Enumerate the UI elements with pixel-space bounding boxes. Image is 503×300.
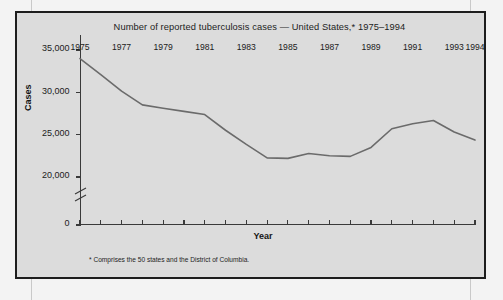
page-background: Number of reported tuberculosis cases — … <box>0 0 503 300</box>
y-axis-tick-label: 25,000 <box>42 128 70 138</box>
y-axis-title: Cases <box>23 84 33 111</box>
y-axis-tick-label: 35,000 <box>42 43 70 53</box>
chart-title: Number of reported tuberculosis cases — … <box>17 22 484 32</box>
y-axis-tick-label: 20,000 <box>42 170 70 180</box>
figure-panel: Number of reported tuberculosis cases — … <box>15 11 486 279</box>
x-axis-title: Year <box>17 231 484 241</box>
plot-area: 020,00025,00030,00035,000 19751977197919… <box>80 35 475 225</box>
y-axis-tick-label: 0 <box>64 218 69 228</box>
figure-footnote: * Comprises the 50 states and the Distri… <box>89 256 249 263</box>
tuberculosis-cases-line <box>80 35 475 225</box>
y-axis-tick-label: 30,000 <box>42 86 70 96</box>
